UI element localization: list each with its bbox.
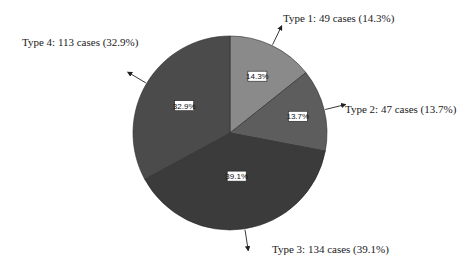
percent-label: 32.9% <box>173 102 196 111</box>
callout-label: Type 2: 47 cases (13.7%) <box>345 103 457 116</box>
callout-leader-arrow <box>273 26 282 45</box>
callout-leader-arrow <box>245 230 248 251</box>
percent-label: 13.7% <box>286 112 309 121</box>
pie-chart: 14.3%13.7%39.1%32.9% Type 1: 49 cases (1… <box>0 0 470 265</box>
callout-leader-arrow <box>128 72 146 83</box>
callout-label: Type 1: 49 cases (14.3%) <box>283 12 395 25</box>
callout-label: Type 3: 134 cases (39.1%) <box>272 243 389 256</box>
percent-label: 39.1% <box>225 172 248 181</box>
percent-label: 14.3% <box>246 72 269 81</box>
callout-label: Type 4: 113 cases (32.9%) <box>22 36 139 49</box>
callout-leader-arrow <box>325 104 345 109</box>
